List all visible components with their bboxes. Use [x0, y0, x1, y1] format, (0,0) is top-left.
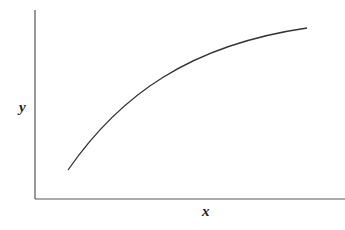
- chart: y x: [0, 0, 345, 230]
- data-curve: [68, 28, 307, 170]
- x-axis-label: x: [201, 203, 210, 219]
- y-axis-label: y: [17, 99, 26, 115]
